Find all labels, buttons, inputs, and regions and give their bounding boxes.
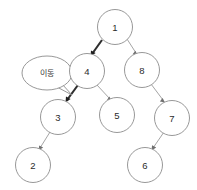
callout-label: 이동	[40, 68, 54, 78]
node-group: 1 4 8 3 5 7	[16, 10, 190, 183]
tree-node-4[interactable]: 4	[70, 54, 105, 89]
diagram-canvas: 이동 1 4 8 3 5	[0, 0, 197, 190]
tree-node-7[interactable]: 7	[155, 101, 190, 136]
edge-4-to-3	[66, 85, 79, 103]
edge-1-to-4-line	[92, 40, 102, 54]
tree-node-7-label: 7	[169, 113, 174, 124]
edge-8-to-7-arrowhead	[160, 98, 165, 103]
tree-node-6-label: 6	[142, 160, 147, 171]
tree-node-5-label: 5	[114, 110, 119, 121]
tree-node-3[interactable]: 3	[41, 100, 76, 135]
tree-node-1[interactable]: 1	[98, 10, 133, 45]
binary-tree-diagram: 이동 1 4 8 3 5	[0, 0, 197, 190]
tree-node-8-label: 8	[139, 65, 144, 76]
edge-3-to-2-line	[40, 132, 50, 148]
tree-node-1-label: 1	[112, 22, 117, 33]
edge-7-to-6-line	[153, 132, 164, 148]
edge-4-to-5-line	[97, 85, 110, 99]
tree-node-8[interactable]: 8	[125, 53, 160, 88]
tree-node-2-label: 2	[30, 160, 35, 171]
edge-1-to-8	[127, 39, 138, 56]
edge-8-to-7	[151, 84, 165, 103]
tree-node-5[interactable]: 5	[100, 98, 135, 133]
edge-7-to-6	[152, 132, 165, 151]
edge-1-to-8-line	[127, 39, 136, 53]
tree-node-6[interactable]: 6	[128, 148, 163, 183]
edge-3-to-2	[39, 132, 51, 151]
tree-node-4-label: 4	[84, 66, 89, 77]
edge-8-to-7-line	[151, 84, 163, 100]
tree-node-3-label: 3	[55, 112, 60, 123]
move-callout-bubble[interactable]: 이동	[22, 56, 72, 95]
tree-node-2[interactable]: 2	[16, 148, 51, 183]
